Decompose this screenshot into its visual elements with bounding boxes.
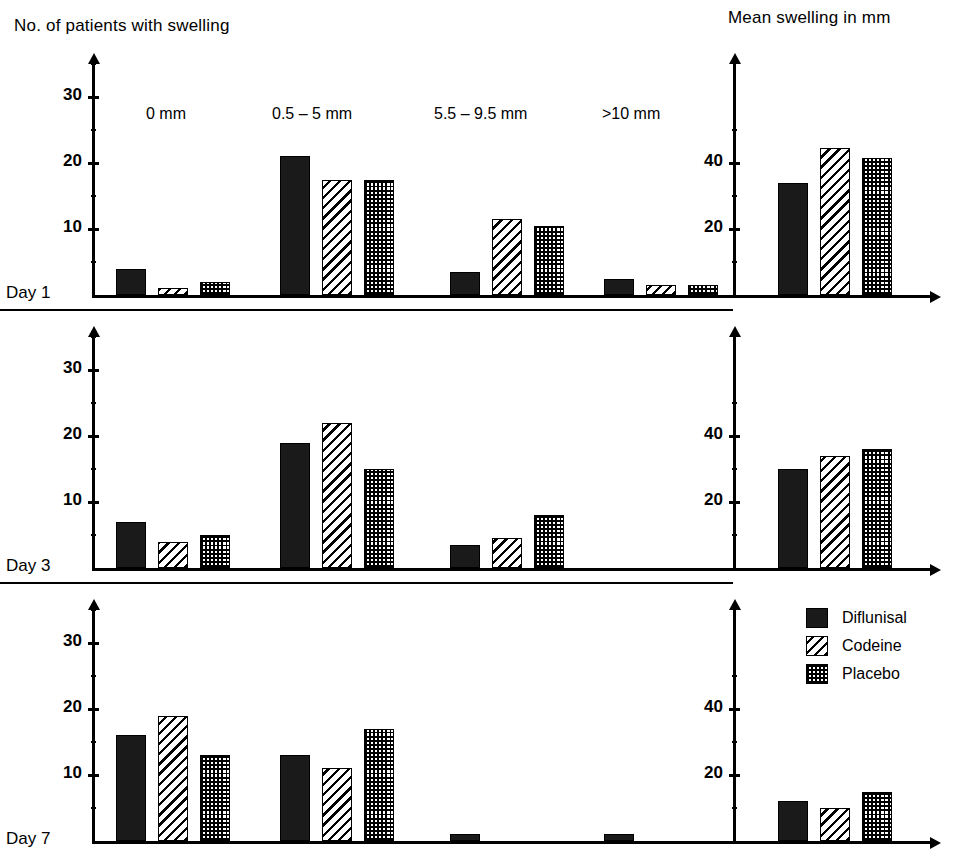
left-minortick-15-day2: [91, 468, 96, 470]
legend-label-placebo: Placebo: [842, 665, 900, 683]
right-baseline-day1: [695, 295, 930, 298]
left-tick-20-day3: [88, 708, 99, 711]
left-tick-label-10-day1: 10: [34, 217, 82, 237]
mean-bar-placebo-day3: [862, 449, 892, 568]
bar-codeine-day3-g2: [492, 538, 522, 568]
bar-codeine-day1-g2: [492, 219, 522, 295]
left-minortick-5-day1: [91, 261, 96, 263]
mean-bar-diflunisal-day3: [778, 469, 808, 568]
left-minortick-25-day1: [91, 129, 96, 131]
left-tick-label-30-day2: 30: [34, 358, 82, 378]
left-minortick-35-day1: [91, 63, 96, 65]
mean-bar-placebo-day1: [862, 158, 892, 295]
right-baseline-day2: [695, 568, 930, 571]
left-tick-20-day2: [88, 435, 99, 438]
left-tick-label-30-day3: 30: [34, 631, 82, 651]
right-tick-40-day1: [729, 162, 740, 165]
left-tick-30-day3: [88, 642, 99, 645]
right-minortick-30-day3: [732, 741, 737, 743]
bar-diflunisal-day3-g2: [450, 545, 480, 568]
left-minortick-25-day2: [91, 402, 96, 404]
left-minortick-25-day3: [91, 675, 96, 677]
day-label-1: Day 1: [6, 283, 50, 303]
legend-swatch-solid-icon: [806, 608, 828, 628]
legend-item-placebo: Placebo: [806, 660, 907, 688]
bar-diflunisal-day1-g3: [604, 279, 634, 296]
bar-codeine-day1-g3: [646, 285, 676, 295]
bar-diflunisal-day3-g1: [280, 443, 310, 568]
left-minortick-5-day2: [91, 534, 96, 536]
left-tick-label-30-day1: 30: [34, 85, 82, 105]
bar-codeine-day3-g0: [158, 542, 188, 568]
bar-placebo-day1-g3: [688, 285, 718, 295]
right-minortick-10-day3: [732, 807, 737, 809]
legend-item-diflunisal: Diflunisal: [806, 604, 907, 632]
left-minortick-15-day3: [91, 741, 96, 743]
bar-diflunisal-day7-g2: [450, 834, 480, 841]
left-minortick-35-day3: [91, 609, 96, 611]
bar-diflunisal-day7-g0: [116, 735, 146, 841]
bar-placebo-day1-g2: [534, 226, 564, 295]
bar-placebo-day3-g2: [534, 515, 564, 568]
left-tick-30-day2: [88, 369, 99, 372]
left-tick-30-day1: [88, 96, 99, 99]
right-tick-label-20-day2: 20: [675, 490, 723, 510]
left-tick-label-10-day2: 10: [34, 490, 82, 510]
bar-placebo-day1-g0: [200, 282, 230, 295]
right-minortick-30-day2: [732, 468, 737, 470]
right-tick-20-day1: [729, 228, 740, 231]
right-axis-arrow-day3: [729, 599, 741, 610]
bar-diflunisal-day1-g1: [280, 156, 310, 295]
right-tick-40-day2: [729, 435, 740, 438]
left-minortick-15-day1: [91, 195, 96, 197]
right-axis-arrow-day1: [729, 53, 741, 64]
day-label-3: Day 7: [6, 829, 50, 849]
left-baseline-day3: [92, 841, 716, 844]
right-minortick-50-day2: [732, 402, 737, 404]
legend-label-codeine: Codeine: [842, 637, 902, 655]
right-minortick-30-day1: [732, 195, 737, 197]
bar-codeine-day1-g0: [158, 288, 188, 295]
right-axis-arrow-day2: [729, 326, 741, 337]
right-baseline-arrow-day3: [930, 837, 941, 849]
bar-codeine-day7-g1: [322, 768, 352, 841]
bar-placebo-day7-g1: [364, 729, 394, 841]
left-baseline-day2: [92, 568, 716, 571]
right-baseline-arrow-day2: [930, 564, 941, 576]
left-baseline-day1: [92, 295, 716, 298]
left-tick-10-day1: [88, 228, 99, 231]
bar-placebo-day3-g1: [364, 469, 394, 568]
right-minortick-10-day1: [732, 261, 737, 263]
panel-divider-2: [0, 582, 733, 584]
mean-bar-diflunisal-day1: [778, 183, 808, 295]
right-tick-label-20-day1: 20: [675, 217, 723, 237]
bar-diflunisal-day7-g3: [604, 834, 634, 841]
mean-bar-codeine-day7: [820, 808, 850, 841]
bar-codeine-day7-g0: [158, 716, 188, 841]
left-tick-10-day2: [88, 501, 99, 504]
left-tick-label-20-day3: 20: [34, 697, 82, 717]
left-tick-label-10-day3: 10: [34, 763, 82, 783]
panel-divider-1: [0, 309, 733, 311]
right-tick-label-20-day3: 20: [675, 763, 723, 783]
chart-legend: DiflunisalCodeinePlacebo: [806, 604, 907, 688]
right-baseline-day3: [695, 841, 930, 844]
left-minortick-5-day3: [91, 807, 96, 809]
bar-diflunisal-day1-g2: [450, 272, 480, 295]
right-tick-label-40-day2: 40: [675, 424, 723, 444]
bar-diflunisal-day1-g0: [116, 269, 146, 295]
legend-swatch-hatch-icon: [806, 636, 828, 656]
legend-item-codeine: Codeine: [806, 632, 907, 660]
bar-codeine-day3-g1: [322, 423, 352, 568]
right-tick-label-40-day1: 40: [675, 151, 723, 171]
left-tick-label-20-day1: 20: [34, 151, 82, 171]
right-minortick-10-day2: [732, 534, 737, 536]
chart-canvas: 102030Day 12040102030Day 32040102030Day …: [0, 0, 953, 859]
left-tick-label-20-day2: 20: [34, 424, 82, 444]
right-minortick-50-day3: [732, 675, 737, 677]
bar-placebo-day7-g0: [200, 755, 230, 841]
bar-diflunisal-day3-g0: [116, 522, 146, 568]
legend-label-diflunisal: Diflunisal: [842, 609, 907, 627]
mean-bar-placebo-day7: [862, 792, 892, 842]
right-tick-label-40-day3: 40: [675, 697, 723, 717]
